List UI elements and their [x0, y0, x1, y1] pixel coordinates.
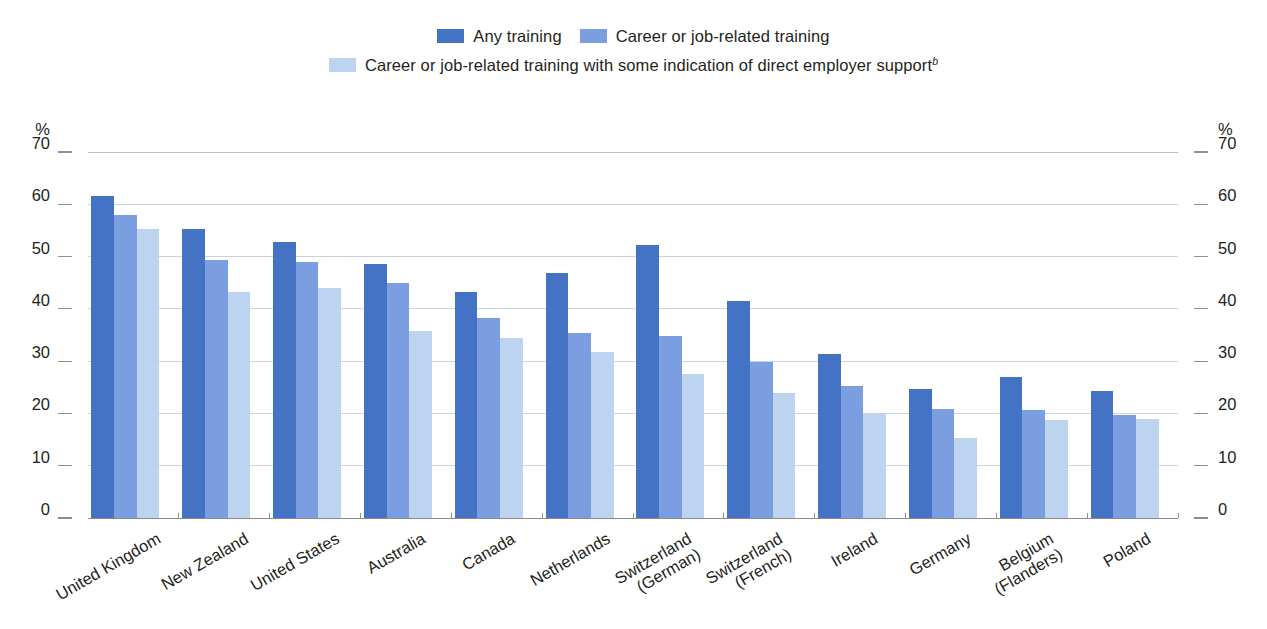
bar[interactable]	[636, 245, 659, 518]
bar[interactable]	[1113, 415, 1136, 518]
x-axis-label: Ireland	[828, 529, 881, 570]
axis-unit-label-right: %	[1218, 120, 1258, 139]
bar[interactable]	[841, 386, 864, 518]
x-axis-tick	[269, 513, 270, 518]
bar[interactable]	[1022, 410, 1045, 518]
bar-group	[546, 152, 614, 518]
bar[interactable]	[477, 318, 500, 518]
x-axis-label: United Kingdom	[52, 529, 163, 604]
legend-entry-any-training: Any training	[437, 28, 561, 45]
x-axis-label: New Zealand	[158, 529, 251, 594]
bar[interactable]	[954, 438, 977, 518]
bar[interactable]	[682, 374, 705, 518]
ytick-dash-right-10	[1194, 465, 1208, 466]
bar[interactable]	[318, 288, 341, 518]
ytick-dash-right-50	[1194, 256, 1208, 257]
bar[interactable]	[659, 336, 682, 518]
legend-swatch-employer-support	[329, 58, 356, 72]
bar[interactable]	[182, 229, 205, 518]
legend-swatch-any-training	[437, 29, 464, 43]
bar-group	[364, 152, 432, 518]
ytick-dash-left-60	[58, 204, 72, 205]
legend-entry-employer-support: Career or job-related training with some…	[329, 57, 938, 74]
ytick-dash-left-50	[58, 256, 72, 257]
ytick-dash-right-0	[1194, 517, 1208, 518]
bar[interactable]	[1045, 420, 1068, 518]
x-axis-label: Canada	[459, 529, 518, 574]
bar-group	[273, 152, 341, 518]
legend-entry-career-job-related: Career or job-related training	[580, 28, 830, 45]
bar-group	[1091, 152, 1159, 518]
bar-group	[182, 152, 250, 518]
bar[interactable]	[455, 292, 478, 518]
bar[interactable]	[568, 333, 591, 518]
legend-label-any-training: Any training	[473, 28, 561, 45]
x-axis-tick	[996, 513, 997, 518]
bar-groups-container	[88, 152, 1178, 518]
x-axis-label: Germany	[906, 529, 974, 579]
bar[interactable]	[1000, 377, 1023, 518]
bar[interactable]	[500, 338, 523, 518]
ytick-dash-right-40	[1194, 308, 1208, 309]
legend-row-2: Career or job-related training with some…	[0, 57, 1267, 74]
ytick-dash-right-70	[1194, 151, 1208, 152]
legend-row-1: Any training Career or job-related train…	[0, 28, 1267, 45]
ytick-dash-left-10	[58, 465, 72, 466]
legend-label-career-job-related: Career or job-related training	[616, 28, 830, 45]
x-axis-label: Australia	[364, 529, 429, 577]
bar[interactable]	[818, 354, 841, 518]
chart-legend: Any training Career or job-related train…	[0, 28, 1267, 73]
bar[interactable]	[387, 283, 410, 518]
bar-group	[455, 152, 523, 518]
x-axis-tick	[542, 513, 543, 518]
bar[interactable]	[750, 362, 773, 518]
x-axis-tick	[633, 513, 634, 518]
bar[interactable]	[1091, 391, 1114, 518]
bar-group	[636, 152, 704, 518]
bar[interactable]	[91, 196, 114, 518]
bar[interactable]	[228, 292, 251, 518]
x-axis-tick	[451, 513, 452, 518]
bar[interactable]	[364, 264, 387, 518]
ytick-dash-left-40	[58, 308, 72, 309]
bar-group	[727, 152, 795, 518]
x-axis-tick	[905, 513, 906, 518]
bar[interactable]	[727, 301, 750, 519]
x-axis-labels: United KingdomNew ZealandUnited StatesAu…	[88, 523, 1178, 629]
x-axis-tick	[1178, 513, 1179, 518]
ytick-dash-right-60	[1194, 204, 1208, 205]
x-axis-tick	[1087, 513, 1088, 518]
legend-footnote-marker: b	[932, 54, 938, 66]
bar[interactable]	[296, 262, 319, 518]
bar[interactable]	[773, 393, 796, 518]
bar[interactable]	[114, 215, 137, 518]
bar[interactable]	[1136, 419, 1159, 518]
ytick-dash-left-20	[58, 413, 72, 414]
ytick-dash-left-70	[58, 151, 72, 152]
ytick-dash-left-0	[58, 517, 72, 518]
bar[interactable]	[205, 260, 228, 518]
axis-unit-label-left: %	[10, 120, 50, 139]
bar[interactable]	[546, 273, 569, 518]
bar[interactable]	[273, 242, 296, 518]
ytick-dash-left-30	[58, 361, 72, 362]
bar[interactable]	[932, 409, 955, 518]
bar[interactable]	[137, 229, 160, 518]
x-axis-tick	[178, 513, 179, 518]
x-axis-tick	[814, 513, 815, 518]
x-axis-label: Switzerland(German)	[612, 529, 704, 604]
legend-label-employer-support: Career or job-related training with some…	[365, 57, 938, 74]
bar-group	[909, 152, 977, 518]
bar[interactable]	[591, 352, 614, 518]
bar[interactable]	[863, 414, 886, 518]
bar[interactable]	[909, 389, 932, 518]
ytick-dash-right-20	[1194, 413, 1208, 414]
x-axis-label: Netherlands	[527, 529, 613, 589]
x-axis-label: Poland	[1100, 529, 1154, 571]
x-axis-label: United States	[247, 529, 342, 595]
x-axis-tick	[360, 513, 361, 518]
x-axis-label: Switzerland(French)	[702, 529, 794, 604]
x-axis-label: Belgium(Flanders)	[982, 529, 1066, 599]
bar[interactable]	[409, 331, 432, 518]
bar-group	[91, 152, 159, 518]
